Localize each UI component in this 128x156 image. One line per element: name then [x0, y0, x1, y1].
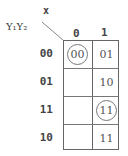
circled-state: 00 [67, 44, 88, 65]
karnaugh-map-grid: 00 01 10 11 11 [63, 40, 119, 150]
row-header-10: 10 [23, 131, 53, 144]
cell-11-0 [64, 97, 91, 124]
cell-10-1: 11 [93, 125, 120, 152]
cell-10-0 [64, 125, 91, 152]
col-header-0: 0 [73, 27, 80, 40]
cell-00-1: 01 [93, 41, 120, 68]
cell-01-1: 10 [93, 69, 120, 96]
col-header-1: 1 [101, 26, 108, 39]
row-header-11: 11 [23, 103, 53, 116]
cell-00-0: 00 [64, 41, 91, 68]
circled-state: 11 [96, 100, 117, 121]
row-header-00: 00 [23, 47, 53, 60]
cell-01-0 [64, 69, 91, 96]
cell-11-1: 11 [93, 97, 120, 124]
row-header-01: 01 [23, 75, 53, 88]
